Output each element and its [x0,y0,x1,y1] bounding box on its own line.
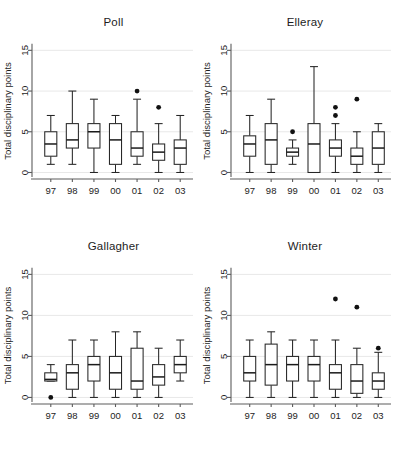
boxplot-gallagher: 051015Total disciplinary points979899000… [0,224,199,449]
svg-text:5: 5 [219,129,230,134]
panel-winter: Winter 051015Total disciplinary points97… [199,224,397,449]
svg-text:0: 0 [219,395,230,400]
svg-text:01: 01 [330,185,341,196]
boxplot-elleray: 051015Total disciplinary points979899000… [199,0,397,224]
svg-text:02: 02 [153,185,164,196]
svg-text:00: 00 [110,185,121,196]
svg-text:5: 5 [219,354,230,359]
svg-text:99: 99 [89,410,100,421]
svg-text:97: 97 [45,410,56,421]
svg-text:03: 03 [175,185,186,196]
figure-root: Poll 051015Total disciplinary points9798… [0,0,397,449]
svg-text:15: 15 [20,269,31,280]
boxplot-winter: 051015Total disciplinary points979899000… [199,224,397,449]
svg-text:0: 0 [20,395,31,400]
svg-text:15: 15 [219,45,230,56]
svg-text:02: 02 [352,410,363,421]
svg-text:10: 10 [20,86,31,97]
svg-text:Total disciplinary points: Total disciplinary points [201,62,212,160]
svg-text:02: 02 [352,185,363,196]
svg-text:99: 99 [89,185,100,196]
svg-text:Total disciplinary points: Total disciplinary points [201,286,212,384]
svg-text:10: 10 [219,86,230,97]
svg-text:03: 03 [373,410,384,421]
svg-text:5: 5 [20,354,31,359]
svg-text:97: 97 [244,185,255,196]
svg-text:00: 00 [309,185,320,196]
svg-text:03: 03 [175,410,186,421]
panel-title-poll: Poll [0,16,199,28]
svg-text:98: 98 [67,185,78,196]
svg-text:03: 03 [373,185,384,196]
svg-text:00: 00 [110,410,121,421]
svg-text:01: 01 [132,410,143,421]
panel-title-winter: Winter [199,240,397,252]
panel-gallagher: Gallagher 051015Total disciplinary point… [0,224,199,449]
panel-elleray: Elleray 051015Total disciplinary points9… [199,0,397,224]
svg-text:Total disciplinary points: Total disciplinary points [2,62,13,160]
svg-text:98: 98 [266,185,277,196]
panel-title-elleray: Elleray [199,16,397,28]
panel-grid: Poll 051015Total disciplinary points9798… [0,0,397,449]
svg-text:97: 97 [45,185,56,196]
svg-text:97: 97 [244,410,255,421]
svg-text:00: 00 [309,410,320,421]
svg-text:15: 15 [219,269,230,280]
svg-text:99: 99 [287,185,298,196]
panel-poll: Poll 051015Total disciplinary points9798… [0,0,199,224]
svg-text:5: 5 [20,129,31,134]
svg-text:15: 15 [20,45,31,56]
svg-text:01: 01 [132,185,143,196]
svg-text:01: 01 [330,410,341,421]
svg-text:10: 10 [20,310,31,321]
svg-text:98: 98 [266,410,277,421]
boxplot-poll: 051015Total disciplinary points979899000… [0,0,199,224]
panel-title-gallagher: Gallagher [0,240,199,252]
svg-text:02: 02 [153,410,164,421]
svg-text:Total disciplinary points: Total disciplinary points [2,286,13,384]
svg-text:98: 98 [67,410,78,421]
svg-text:0: 0 [20,170,31,175]
svg-text:0: 0 [219,170,230,175]
svg-text:10: 10 [219,310,230,321]
svg-text:99: 99 [287,410,298,421]
